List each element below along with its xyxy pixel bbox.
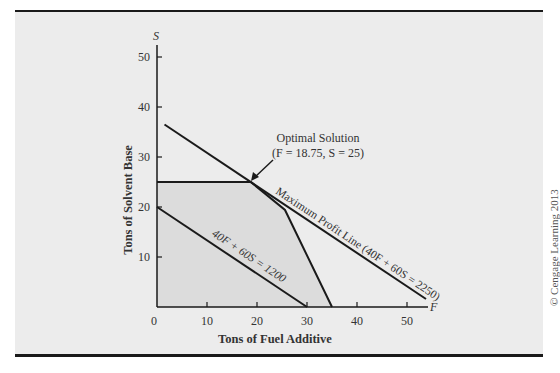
optimal-arrow-head-icon	[251, 172, 259, 181]
y-tick-label: 30	[138, 150, 150, 164]
lp-graph: 10 20 30 40 50 0 10 20 30 40 50 S F Tons…	[0, 0, 560, 373]
y-tick-label: 40	[138, 100, 150, 114]
x-axis-title: Tons of Fuel Additive	[218, 332, 332, 346]
x-tick-label: 40	[351, 314, 363, 328]
optimal-solution-coords: (F = 18.75, S = 25)	[272, 146, 364, 160]
copyright-notice: © Cengage Learning 2013	[548, 189, 560, 306]
optimal-solution-label: Optimal Solution	[276, 131, 359, 145]
y-tick-label: 10	[138, 250, 150, 264]
x-axis-letter: F	[429, 300, 438, 314]
x-tick-label: 30	[301, 314, 313, 328]
y-tick-label: 50	[138, 50, 150, 64]
y-axis-title: Tons of Solvent Base	[121, 145, 135, 255]
x-tick-label: 50	[401, 314, 413, 328]
x-tick-label: 0	[151, 314, 157, 328]
y-axis-letter: S	[153, 29, 159, 43]
x-tick-label: 20	[251, 314, 263, 328]
y-tick-label: 20	[138, 200, 150, 214]
x-tick-label: 10	[201, 314, 213, 328]
